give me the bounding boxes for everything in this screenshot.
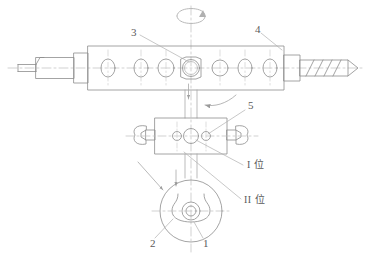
callout-label-4: 4 — [255, 24, 261, 35]
leader-lines — [140, 33, 282, 238]
rotary-chuck-front-view — [152, 180, 232, 242]
callout-label-5: 5 — [248, 100, 254, 111]
callout-label-1: 1 — [203, 238, 209, 249]
leader-3 — [140, 35, 189, 62]
leader-5 — [208, 110, 245, 134]
feed-arrow-diagonal — [138, 162, 163, 190]
patent-figure: 3 4 5 1 2 I 位 II 位 — [0, 0, 370, 259]
bar-right-threaded-section — [300, 60, 348, 76]
position-label-2: II 位 — [244, 195, 265, 205]
figure-drawing-canvas — [0, 0, 370, 259]
position-label-1: I 位 — [247, 160, 264, 170]
clamp-left-jaw — [134, 126, 146, 145]
bar-left-tip — [18, 58, 44, 72]
callout-label-3: 3 — [131, 27, 137, 38]
leader-1 — [194, 222, 203, 238]
callout-label-2: 2 — [150, 238, 156, 249]
clamp-fixture — [126, 118, 258, 154]
rotation-indicator-icon — [177, 9, 206, 24]
leader-2 — [155, 219, 173, 238]
clamp-right-jaw — [236, 126, 248, 145]
clamp-left-jaw-arm — [146, 130, 155, 140]
leader-4 — [261, 33, 282, 50]
clamp-right-jaw-arm — [227, 130, 236, 140]
horizontal-shaft-bar — [18, 46, 358, 90]
motion-arc-arrow-top — [205, 95, 236, 106]
